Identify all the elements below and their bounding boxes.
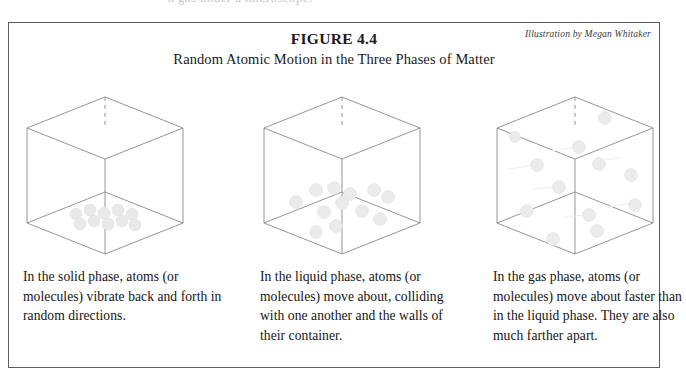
solid-particles <box>70 204 141 231</box>
figure-box: FIGURE 4.4 Random Atomic Motion in the T… <box>8 22 660 368</box>
cube-diagram-liquid <box>258 89 476 261</box>
illustration-credit: Illustration by Megan Whitaker <box>525 29 651 39</box>
scan-artifact-text: a gas under a microscope. <box>168 0 313 6</box>
cube-wireframe <box>27 97 183 254</box>
gas-particles <box>510 112 642 246</box>
cube-diagram-gas <box>491 89 686 261</box>
panel-solid: In the solid phase, atoms (or molecules)… <box>15 89 233 365</box>
scan-edge-artifact: a gas under a microscope. <box>0 0 671 16</box>
panel-gas: In the gas phase, atoms (or molecules) m… <box>483 89 686 365</box>
panel-liquid: In the liquid phase, atoms (or molecules… <box>250 89 468 365</box>
caption-gas: In the gas phase, atoms (or molecules) m… <box>493 267 686 345</box>
isometric-cube-liquid <box>258 89 428 261</box>
cube-wireframe <box>264 97 420 254</box>
caption-solid: In the solid phase, atoms (or molecules)… <box>23 267 223 326</box>
caption-liquid: In the liquid phase, atoms (or molecules… <box>260 267 470 345</box>
cube-diagram-solid <box>21 89 239 261</box>
isometric-cube-solid <box>21 89 191 261</box>
isometric-cube-gas <box>491 89 661 261</box>
figure-title: Random Atomic Motion in the Three Phases… <box>9 49 659 69</box>
phase-panels: In the solid phase, atoms (or molecules)… <box>9 89 661 365</box>
